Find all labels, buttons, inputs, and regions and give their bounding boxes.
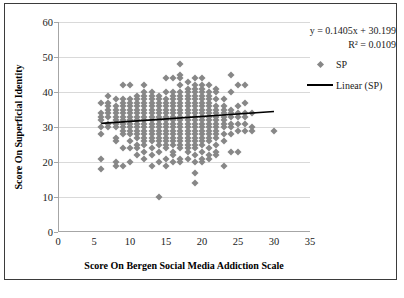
y-tick-mark [54,232,58,233]
x-tick-label: 30 [269,236,280,247]
y-tick-label: 30 [43,122,54,133]
regression-annotation: y = 0.1405x + 30.199 R² = 0.0109 [304,24,396,51]
y-tick-label: 40 [43,87,54,98]
legend-item-sp[interactable]: SP [304,58,400,70]
y-tick-label: 60 [43,17,54,28]
trendline [58,22,310,232]
r-squared-value: R² = 0.0109 [304,38,396,52]
y-axis-title: Score On Superficial Identity [13,64,24,189]
trendline-segment [101,112,274,124]
figure-container: 0102030405060 05101520253035 Score On Su… [0,0,404,298]
x-tick-label: 35 [305,236,316,247]
y-tick-label: 10 [43,192,54,203]
x-axis-title: Score On Bergen Social Media Addiction S… [58,260,310,271]
x-tick-label: 20 [197,236,208,247]
x-tick-label: 15 [161,236,172,247]
regression-equation: y = 0.1405x + 30.199 [304,24,396,38]
y-tick-label: 50 [43,52,54,63]
diamond-marker-icon [304,62,336,67]
legend-label-linear-sp: Linear (SP) [336,80,382,91]
x-tick-label: 10 [125,236,136,247]
y-tick-label: 20 [43,157,54,168]
y-tick-label: 0 [48,227,53,238]
plot-area: 0102030405060 05101520253035 [58,22,310,232]
legend-label-sp: SP [336,59,347,70]
legend-item-linear-sp[interactable]: Linear (SP) [304,79,400,91]
x-tick-label: 5 [91,236,96,247]
x-tick-label: 0 [55,236,60,247]
legend: SP Linear (SP) [304,58,400,100]
line-marker-icon [304,84,336,86]
x-tick-label: 25 [233,236,244,247]
